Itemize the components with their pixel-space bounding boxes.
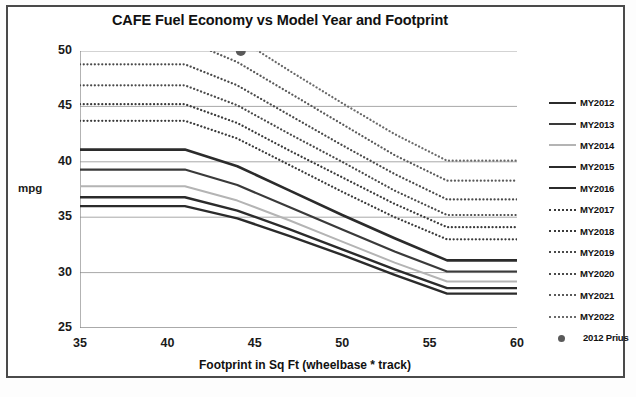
data-point-2012-prius xyxy=(236,51,246,56)
y-tick-40: 40 xyxy=(42,154,72,168)
plot-area xyxy=(80,51,517,328)
legend-swatch-icon xyxy=(549,246,576,258)
series-line-MY2018 xyxy=(80,104,517,227)
legend-item-MY2018[interactable]: MY2018 xyxy=(549,220,627,241)
legend-item-MY2021[interactable]: MY2021 xyxy=(549,285,627,306)
legend-item-label: MY2019 xyxy=(580,247,614,258)
legend-item-2012-prius[interactable]: 2012 Prius xyxy=(549,327,627,348)
legend-item-MY2015[interactable]: MY2015 xyxy=(549,156,627,177)
y-tick-45: 45 xyxy=(42,98,72,112)
legend-swatch-icon xyxy=(549,268,576,280)
legend-item-label: MY2018 xyxy=(580,226,614,237)
legend-swatch-icon xyxy=(549,139,576,151)
legend-item-MY2014[interactable]: MY2014 xyxy=(549,135,627,156)
legend-item-label: MY2012 xyxy=(580,97,614,108)
series-line-MY2021 xyxy=(80,51,517,181)
x-tick-60: 60 xyxy=(497,336,537,350)
legend-item-MY2012[interactable]: MY2012 xyxy=(549,92,627,113)
legend-item-label: MY2017 xyxy=(580,204,614,215)
legend-item-label: MY2013 xyxy=(580,119,614,130)
y-tick-35: 35 xyxy=(42,209,72,223)
legend-item-label: MY2020 xyxy=(580,268,614,279)
series-line-MY2013 xyxy=(80,170,517,272)
y-axis-label: mpg xyxy=(18,182,42,194)
x-tick-35: 35 xyxy=(60,336,100,350)
legend-swatch-icon xyxy=(549,311,576,323)
legend-swatch-icon xyxy=(549,204,576,216)
series-line-MY2022 xyxy=(80,51,517,161)
legend-item-MY2019[interactable]: MY2019 xyxy=(549,242,627,263)
legend-swatch-icon xyxy=(549,182,576,194)
legend-item-MY2013[interactable]: MY2013 xyxy=(549,113,627,134)
legend-swatch-icon xyxy=(549,161,576,173)
legend-swatch-icon xyxy=(549,225,576,237)
legend-item-MY2016[interactable]: MY2016 xyxy=(549,178,627,199)
legend-marker-dot-icon xyxy=(549,332,576,344)
legend-item-label: MY2014 xyxy=(580,140,614,151)
legend-swatch-icon xyxy=(549,289,576,301)
y-tick-30: 30 xyxy=(42,265,72,279)
legend-swatch-icon xyxy=(549,118,576,130)
x-axis-label: Footprint in Sq Ft (wheelbase * track) xyxy=(140,358,470,372)
legend-item-MY2020[interactable]: MY2020 xyxy=(549,263,627,284)
chart-title: CAFE Fuel Economy vs Model Year and Foot… xyxy=(60,12,500,28)
x-tick-45: 45 xyxy=(235,336,275,350)
chart-screenshot: CAFE Fuel Economy vs Model Year and Foot… xyxy=(0,0,636,397)
legend-item-label: MY2016 xyxy=(580,183,614,194)
legend-item-label: MY2022 xyxy=(580,311,614,322)
legend-item-label: MY2015 xyxy=(580,161,614,172)
legend-item-MY2022[interactable]: MY2022 xyxy=(549,306,627,327)
x-tick-40: 40 xyxy=(147,336,187,350)
legend-swatch-icon xyxy=(549,97,576,109)
series-line-MY2020 xyxy=(80,64,517,199)
y-tick-50: 50 xyxy=(42,43,72,57)
legend-item-label: MY2021 xyxy=(580,290,614,301)
legend-item-label: 2012 Prius xyxy=(580,332,629,343)
y-tick-25: 25 xyxy=(42,320,72,334)
chart-legend: MY2012MY2013MY2014MY2015MY2016MY2017MY20… xyxy=(549,92,627,349)
x-tick-55: 55 xyxy=(410,336,450,350)
series-lines xyxy=(80,51,517,328)
legend-item-MY2017[interactable]: MY2017 xyxy=(549,199,627,220)
x-tick-50: 50 xyxy=(322,336,362,350)
